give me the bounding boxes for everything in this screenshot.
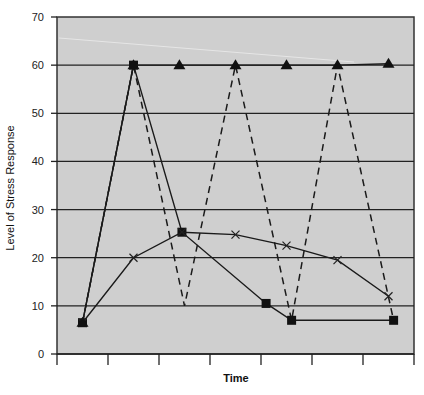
y-tick-label: 60 [32, 59, 44, 71]
y-tick-label: 40 [32, 155, 44, 167]
square-marker [262, 299, 271, 308]
y-tick-label: 20 [32, 252, 44, 264]
square-marker [389, 316, 398, 325]
y-tick-label: 50 [32, 107, 44, 119]
stress-response-chart: 010203040506070 Time Level of Stress Res… [0, 0, 424, 395]
y-tick-label: 0 [38, 348, 44, 360]
x-axis-ticks [57, 354, 414, 365]
square-marker [287, 316, 296, 325]
y-tick-label: 10 [32, 300, 44, 312]
y-tick-label: 70 [32, 11, 44, 23]
y-axis-ticks: 010203040506070 [32, 11, 57, 360]
y-axis-title: Level of Stress Response [4, 125, 16, 250]
x-axis-title: Time [223, 372, 248, 384]
y-tick-label: 30 [32, 204, 44, 216]
